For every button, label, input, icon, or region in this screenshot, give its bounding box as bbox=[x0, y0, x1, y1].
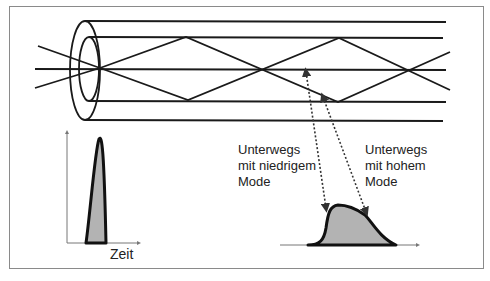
high-mode-label-line: Unterwegs bbox=[365, 142, 427, 158]
input-pulse-plot bbox=[67, 132, 139, 243]
cladding-top-edge bbox=[85, 21, 446, 22]
fiber-diagram bbox=[0, 0, 490, 281]
cladding-bottom-edge bbox=[85, 120, 443, 121]
low-mode-label: Unterwegs mit niedrigem Mode bbox=[238, 142, 316, 190]
high-mode-label: Unterwegs mit hohem Mode bbox=[365, 142, 427, 190]
high-mode-label-line: mit hohem bbox=[365, 158, 427, 174]
input-pulse-shape bbox=[86, 138, 106, 243]
high-mode-label-line: Mode bbox=[365, 174, 427, 190]
high-mode-arrow bbox=[323, 97, 366, 212]
output-pulse-plot bbox=[280, 205, 418, 245]
low-mode-label-line: mit niedrigem bbox=[238, 158, 316, 174]
core-bottom-edge bbox=[89, 101, 446, 102]
low-mode-label-line: Unterwegs bbox=[238, 142, 316, 158]
cladding-end-face bbox=[70, 21, 100, 120]
time-axis-label: Zeit bbox=[110, 246, 133, 262]
output-pulse-shape bbox=[308, 205, 396, 245]
core-top-edge bbox=[89, 37, 443, 38]
low-mode-label-line: Mode bbox=[238, 174, 316, 190]
